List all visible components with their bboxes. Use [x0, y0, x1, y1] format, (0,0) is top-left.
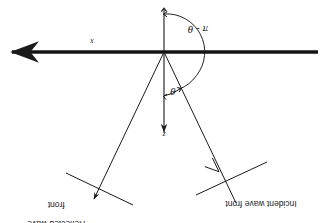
incident-ray	[164, 52, 236, 203]
reflected-ray	[94, 52, 164, 199]
z-axis-label: z	[158, 129, 170, 138]
pi-minus-theta-angle-label: π - θ	[178, 24, 218, 36]
reflected-wavefront-label-line2: front	[48, 200, 65, 210]
x-axis-label: x	[86, 36, 98, 45]
reflected-wavefront-label: Reflected wave front	[18, 190, 104, 223]
incident-wavefront-label: Incident wave front	[213, 198, 309, 208]
reflected-wavefront-label-line1: Reflected wave	[27, 219, 85, 223]
theta-angle-label: θ	[166, 86, 180, 98]
wave-reflection-diagram: x z θ π - θ Reflected wave front Inciden…	[0, 0, 322, 223]
